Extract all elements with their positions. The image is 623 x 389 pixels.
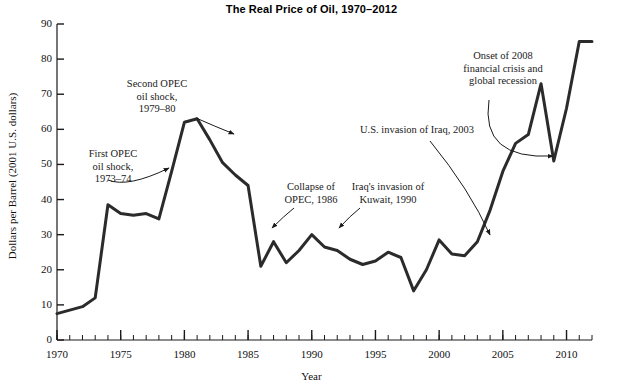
y-axis-title: Dollars per Barrel (2001 U.S. dollars) [6,91,18,261]
y-tick-label: 0 [20,333,52,345]
annotation-iraq-invasion-of-kuwait: Iraq's invasion of Kuwait, 1990 [335,181,441,206]
chart-figure: The Real Price of Oil, 1970–2012 Dollars… [0,0,623,389]
x-tick-label: 1975 [96,348,146,360]
annotation-arrow-collapse-of-opec [272,208,294,228]
x-tick-label: 1980 [159,348,209,360]
x-tick-label: 2010 [542,348,592,360]
x-tick-label: 2000 [414,348,464,360]
y-tick-label: 10 [20,298,52,310]
annotation-first-opec-oil-shock: First OPEC oil shock, 1973–74 [63,148,163,186]
y-tick-label: 30 [20,228,52,240]
x-tick-label: 1970 [32,348,82,360]
x-tick-label: 2005 [478,348,528,360]
annotation-second-opec-oil-shock: Second OPEC oil shock, 1979–80 [104,78,210,116]
y-tick-label: 20 [20,263,52,275]
x-tick-label: 1995 [350,348,400,360]
y-tick-label: 40 [20,193,52,205]
annotation-onset-of-2008-crisis: Onset of 2008 financial crisis and globa… [443,50,563,88]
y-tick-label: 50 [20,157,52,169]
x-axis-minor-ticks [57,335,592,340]
annotation-arrow-iraq-invasion-of-kuwait [339,208,360,228]
annotation-arrow-onset-of-2008-financial-crisis [488,100,553,156]
y-tick-label: 70 [20,87,52,99]
y-tick-label: 90 [20,17,52,29]
annotation-arrows [108,100,553,235]
x-axis-title: Year [0,370,623,382]
y-tick-label: 60 [20,122,52,134]
y-tick-label: 80 [20,52,52,64]
x-tick-label: 1985 [223,348,273,360]
x-tick-label: 1990 [287,348,337,360]
annotation-us-invasion-of-iraq: U.S. invasion of Iraq, 2003 [345,124,489,137]
